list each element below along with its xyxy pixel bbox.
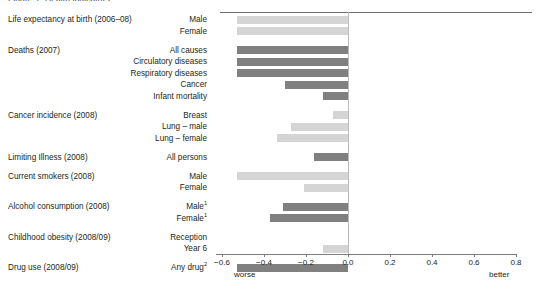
axis-tick-label: 0.2 bbox=[384, 258, 395, 267]
bar bbox=[314, 153, 348, 161]
series-label: Circulatory diseases bbox=[133, 57, 207, 66]
bar bbox=[285, 81, 348, 89]
bar bbox=[277, 134, 348, 142]
series-label: All persons bbox=[166, 153, 207, 162]
zero-reference-line bbox=[348, 12, 349, 254]
group-label: Alcohol consumption (2008) bbox=[8, 202, 110, 211]
plot-top-rule bbox=[220, 12, 532, 13]
axis-tick-label: 0.6 bbox=[468, 258, 479, 267]
axis-tick bbox=[474, 254, 475, 257]
axis-tick-label: −0.4 bbox=[256, 258, 272, 267]
series-label: Female bbox=[180, 183, 207, 192]
axis-tick-label: −0.2 bbox=[298, 258, 314, 267]
series-label: All causes bbox=[170, 46, 207, 55]
series-label: Female bbox=[180, 27, 207, 36]
series-label: Lung – male bbox=[162, 122, 207, 131]
axis-tick bbox=[222, 254, 223, 257]
axis-tick-label: 0.4 bbox=[426, 258, 437, 267]
bar bbox=[237, 69, 348, 77]
bar bbox=[283, 203, 348, 211]
bar bbox=[291, 123, 348, 131]
axis-note-worse: worse bbox=[234, 270, 255, 279]
bar bbox=[323, 245, 348, 253]
group-label: Cancer incidence (2008) bbox=[8, 111, 97, 120]
series-label: Infant mortality bbox=[153, 92, 207, 101]
axis-tick-label: −0.6 bbox=[214, 258, 230, 267]
group-label: Drug use (2008/09) bbox=[8, 263, 79, 272]
group-label: Deaths (2007) bbox=[8, 46, 60, 55]
series-label: Male bbox=[189, 172, 207, 181]
footnote-marker: 1 bbox=[204, 212, 207, 218]
axis-tick-label: 0.0 bbox=[342, 258, 353, 267]
group-label: Limiting Illness (2008) bbox=[8, 153, 88, 162]
footnote-marker: 2 bbox=[204, 261, 207, 267]
axis-tick bbox=[348, 254, 349, 257]
axis-note-better: better bbox=[489, 270, 509, 279]
series-label: Year 6 bbox=[184, 244, 207, 253]
bar bbox=[333, 111, 348, 119]
axis-tick bbox=[264, 254, 265, 257]
series-label: Female1 bbox=[177, 214, 207, 223]
clipped-heading-fragment: Figure 1: Health indicators bbox=[8, 0, 110, 1]
bar bbox=[237, 16, 348, 24]
series-label: Breast bbox=[183, 111, 207, 120]
series-label: Cancer bbox=[181, 80, 207, 89]
bar bbox=[237, 27, 348, 35]
axis-tick bbox=[432, 254, 433, 257]
health-indicators-figure: Figure 1: Health indicators Life expecta… bbox=[0, 0, 540, 290]
bar bbox=[304, 184, 348, 192]
footnote-marker: 1 bbox=[204, 200, 207, 206]
axis-tick-label: 0.8 bbox=[510, 258, 521, 267]
bar bbox=[270, 214, 348, 222]
bar bbox=[237, 172, 348, 180]
bar bbox=[323, 92, 348, 100]
series-label: Male bbox=[189, 15, 207, 24]
group-label: Childhood obesity (2008/09) bbox=[8, 233, 110, 242]
series-label: Respiratory diseases bbox=[131, 69, 207, 78]
group-label: Life expectancy at birth (2006–08) bbox=[8, 15, 132, 24]
series-label: Male1 bbox=[186, 202, 207, 211]
axis-tick bbox=[390, 254, 391, 257]
axis-tick bbox=[306, 254, 307, 257]
series-label: Reception bbox=[170, 233, 207, 242]
series-label: Any drug2 bbox=[171, 263, 207, 272]
bar bbox=[237, 58, 348, 66]
x-axis-line bbox=[216, 254, 517, 255]
group-label: Current smokers (2008) bbox=[8, 172, 94, 181]
axis-tick bbox=[516, 254, 517, 257]
bar bbox=[237, 46, 348, 54]
series-label: Lung – female bbox=[155, 134, 207, 143]
